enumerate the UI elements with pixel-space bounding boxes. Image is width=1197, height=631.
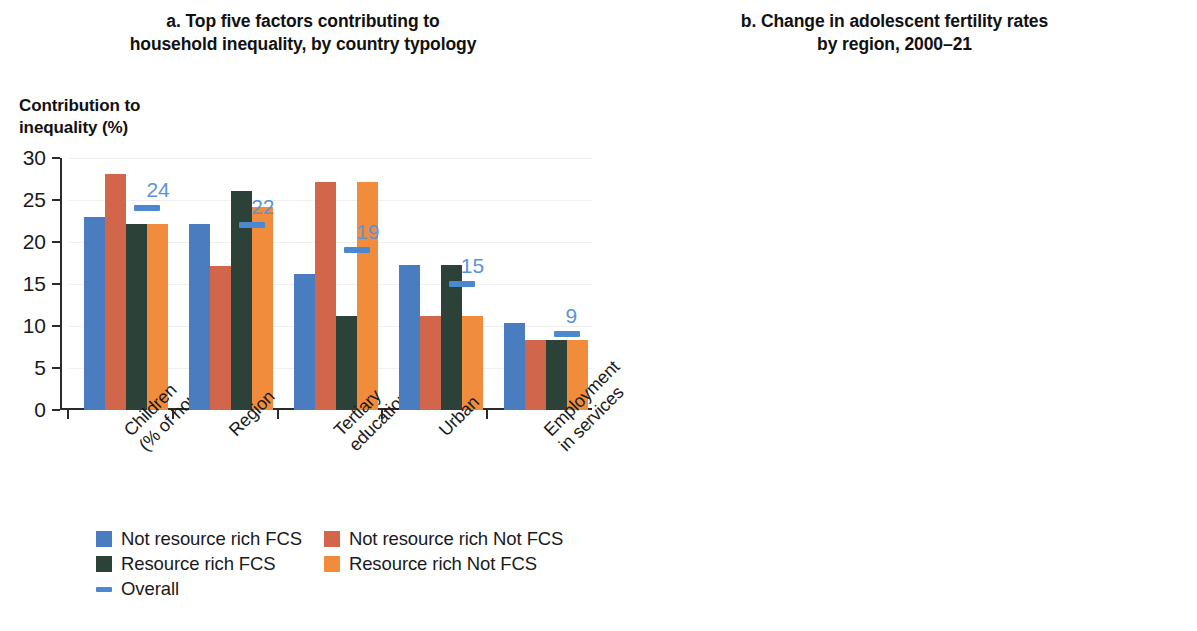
overall-marker: [344, 247, 370, 253]
overall-value-label: 22: [251, 195, 274, 219]
overall-marker: [449, 281, 475, 287]
legend-item: Resource rich Not FCS: [324, 553, 563, 575]
panel-b-title-line1: b. Change in adolescent fertility rates: [610, 10, 1179, 33]
legend-item: Not resource rich Not FCS: [324, 528, 563, 550]
panel-a-plot-area: 051015202530Children(% of household)Regi…: [68, 158, 592, 410]
y-axis-tick-label: 0: [34, 398, 46, 422]
panel-a-title-line2: household inequality, by country typolog…: [30, 33, 576, 56]
x-axis-tick: [486, 410, 488, 419]
y-axis-tick: [52, 325, 60, 327]
legend-item-label: Resource rich FCS: [121, 553, 276, 575]
bar-resource-rich-fcs: [546, 340, 567, 410]
bar-resource-rich-not-fcs: [252, 207, 273, 410]
y-axis-tick-label: 30: [23, 146, 46, 170]
panel-b-title: b. Change in adolescent fertility rates …: [600, 0, 1197, 56]
y-axis-tick-label: 15: [23, 272, 46, 296]
bar-resource-rich-fcs: [126, 224, 147, 410]
panel-b-title-line2: by region, 2000–21: [610, 33, 1179, 56]
bar-not-resource-rich-fcs: [399, 265, 420, 410]
y-axis-tick-label: 10: [23, 314, 46, 338]
blue-square-swatch: [96, 531, 112, 547]
overall-marker: [239, 222, 265, 228]
orange-square-swatch: [324, 556, 340, 572]
panel-a-axis-caption-line2: inequality (%): [19, 117, 140, 139]
bar-not-resource-rich-fcs: [504, 323, 525, 410]
panel-b-adolescent-fertility: b. Change in adolescent fertility rates …: [600, 0, 1197, 631]
panel-a-household-inequality: a. Top five factors contributing to hous…: [0, 0, 600, 631]
y-axis-tick: [52, 409, 60, 411]
overall-value-label: 9: [566, 304, 578, 328]
y-axis-line: [60, 158, 62, 410]
x-axis-tick: [381, 410, 383, 419]
bar-not-resource-rich-not-fcs: [525, 340, 546, 410]
bar-not-resource-rich-not-fcs: [105, 174, 126, 410]
y-axis-tick-label: 20: [23, 230, 46, 254]
bar-resource-rich-fcs: [336, 316, 357, 410]
x-axis-tick: [67, 410, 69, 419]
y-axis-tick: [52, 157, 60, 159]
legend-item-label: Resource rich Not FCS: [349, 553, 537, 575]
panel-a-title: a. Top five factors contributing to hous…: [0, 0, 600, 56]
bar-not-resource-rich-fcs: [189, 224, 210, 410]
panel-a-legend: Not resource rich FCSNot resource rich N…: [96, 528, 563, 600]
y-axis-tick: [52, 199, 60, 201]
bar-not-resource-rich-not-fcs: [210, 266, 231, 410]
overall-marker: [134, 205, 160, 211]
x-axis-tick: [172, 410, 174, 419]
dark-green-square-swatch: [96, 556, 112, 572]
y-axis-tick: [52, 283, 60, 285]
overall-marker: [554, 331, 580, 337]
bar-not-resource-rich-fcs: [294, 274, 315, 410]
red-square-swatch: [324, 531, 340, 547]
legend-item: Resource rich FCS: [96, 553, 302, 575]
y-axis-tick: [52, 367, 60, 369]
legend-item-label: Not resource rich Not FCS: [349, 528, 563, 550]
legend-item: Not resource rich FCS: [96, 528, 302, 550]
y-axis-tick-label: 25: [23, 188, 46, 212]
panel-a-title-line1: a. Top five factors contributing to: [30, 10, 576, 33]
blue-dash-marker: [96, 587, 112, 592]
overall-value-label: 15: [461, 254, 484, 278]
legend-item: Overall: [96, 578, 302, 600]
panel-a-axis-caption-line1: Contribution to: [19, 95, 140, 117]
legend-item-label: Not resource rich FCS: [121, 528, 302, 550]
bar-not-resource-rich-not-fcs: [420, 316, 441, 410]
overall-value-label: 24: [146, 178, 169, 202]
bar-not-resource-rich-fcs: [84, 217, 105, 410]
y-axis-tick: [52, 241, 60, 243]
x-axis-tick: [277, 410, 279, 419]
bar-not-resource-rich-not-fcs: [315, 182, 336, 410]
legend-item-label: Overall: [121, 578, 179, 600]
gridline: [68, 158, 592, 159]
panel-a-axis-caption: Contribution to inequality (%): [19, 95, 140, 139]
y-axis-tick-label: 5: [34, 356, 46, 380]
overall-value-label: 19: [356, 220, 379, 244]
bar-resource-rich-not-fcs: [357, 182, 378, 410]
